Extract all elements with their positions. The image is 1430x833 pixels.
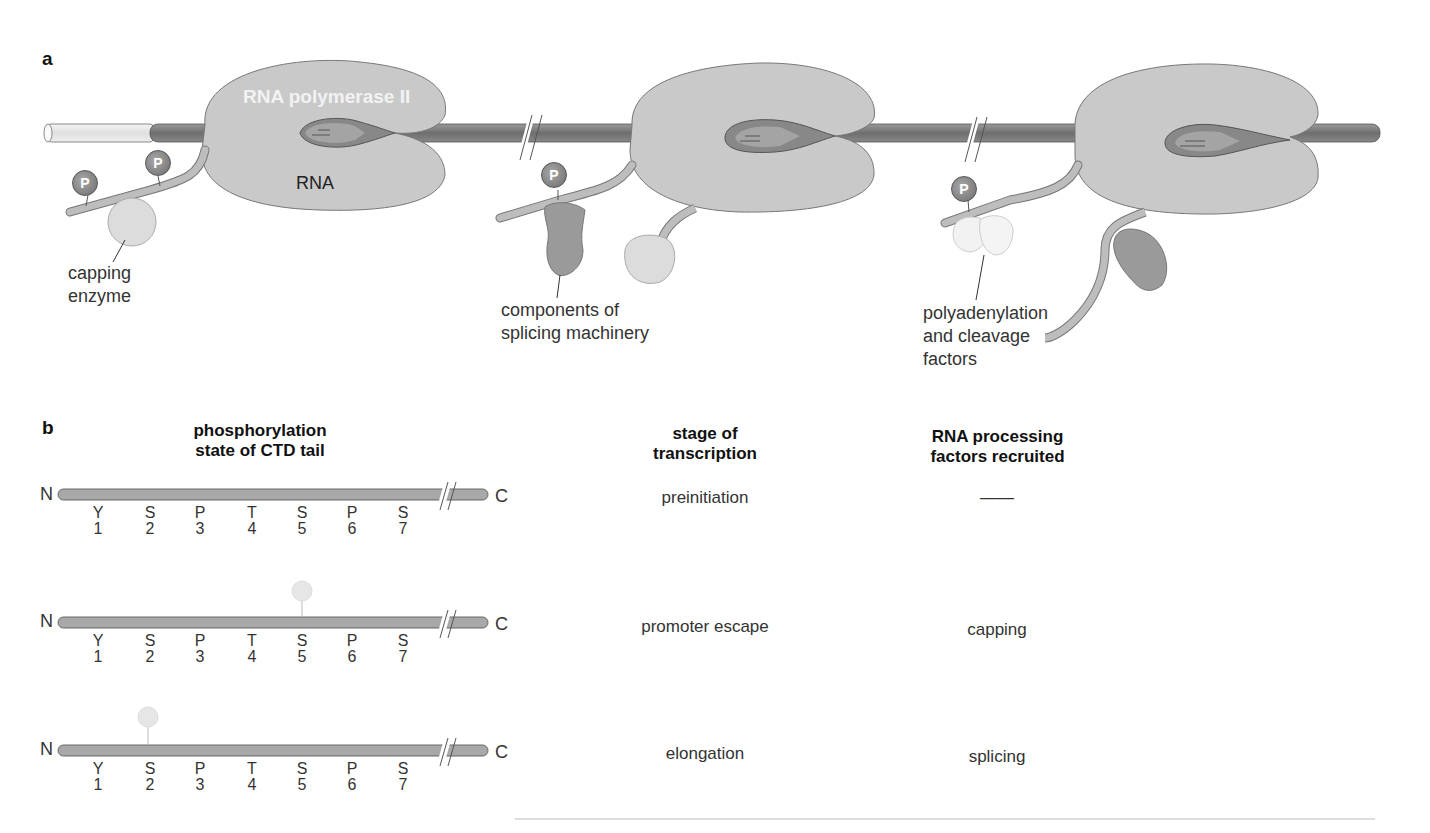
panel-b-letter: b bbox=[42, 417, 54, 439]
polyadenylation-factors-label: polyadenylation and cleavage factors bbox=[923, 302, 1048, 371]
residue: P3 bbox=[190, 761, 210, 793]
factors-header: RNA processing factors recruited bbox=[885, 427, 1110, 467]
n-terminal: N bbox=[40, 611, 53, 632]
residue: S2 bbox=[140, 633, 160, 665]
phosphate-icon: P bbox=[951, 176, 977, 202]
polymerase-label: RNA polymerase II bbox=[243, 86, 410, 108]
residue: P6 bbox=[342, 505, 362, 537]
residue: S7 bbox=[393, 633, 413, 665]
stage-cell: promoter escape bbox=[605, 617, 805, 637]
stage-cell: elongation bbox=[605, 744, 805, 764]
phosphate-icon: P bbox=[145, 150, 171, 176]
stage-cell: preinitiation bbox=[605, 488, 805, 508]
ctd-bar-row-1 bbox=[58, 482, 488, 510]
divider bbox=[515, 818, 1375, 820]
transcription-diagram bbox=[0, 0, 1430, 400]
rna-polymerase-3 bbox=[945, 64, 1318, 338]
residue: P3 bbox=[190, 505, 210, 537]
splicing-machinery-label: components of splicing machinery bbox=[501, 299, 649, 345]
phosphate-s2-icon bbox=[138, 707, 158, 727]
residue: P6 bbox=[342, 633, 362, 665]
factors-cell: —— bbox=[897, 488, 1097, 508]
ctd-bar-row-3 bbox=[58, 707, 488, 766]
capping-enzyme-label: capping enzyme bbox=[68, 262, 131, 308]
residue: S5 bbox=[292, 761, 312, 793]
ctd-bar-row-2 bbox=[58, 581, 488, 638]
phosphate-icon: P bbox=[72, 170, 98, 196]
rna-label: RNA bbox=[296, 172, 334, 195]
residue: T4 bbox=[242, 761, 262, 793]
c-terminal: C bbox=[495, 486, 508, 507]
residue: S7 bbox=[393, 761, 413, 793]
residue: S2 bbox=[140, 505, 160, 537]
residue: S5 bbox=[292, 633, 312, 665]
ctd-header: phosphorylation state of CTD tail bbox=[160, 421, 360, 461]
c-terminal: C bbox=[495, 614, 508, 635]
residue: S7 bbox=[393, 505, 413, 537]
stage-header: stage of transcription bbox=[620, 424, 790, 464]
residue: T4 bbox=[242, 633, 262, 665]
phosphate-icon: P bbox=[541, 162, 567, 188]
residue: Y1 bbox=[88, 633, 108, 665]
factors-cell: capping bbox=[897, 620, 1097, 640]
residue: Y1 bbox=[88, 505, 108, 537]
residue: P6 bbox=[342, 761, 362, 793]
residue: S2 bbox=[140, 761, 160, 793]
factors-cell: splicing bbox=[897, 747, 1097, 767]
residue: S5 bbox=[292, 505, 312, 537]
n-terminal: N bbox=[40, 739, 53, 760]
c-terminal: C bbox=[495, 742, 508, 763]
residue: Y1 bbox=[88, 761, 108, 793]
residue: P3 bbox=[190, 633, 210, 665]
n-terminal: N bbox=[40, 484, 53, 505]
residue: T4 bbox=[242, 505, 262, 537]
phosphate-s5-icon bbox=[292, 581, 312, 601]
